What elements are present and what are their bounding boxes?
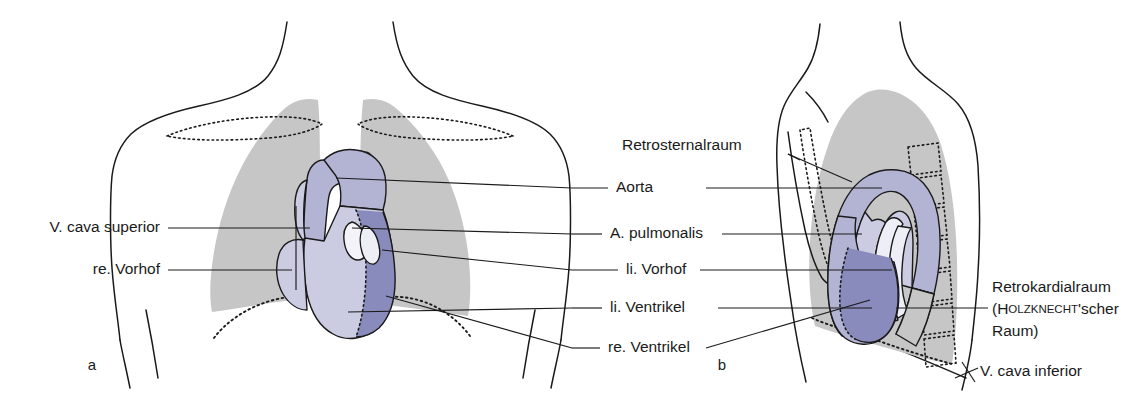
label-retrokardialraum-line2: (HOLZKNECHT'scher: [992, 300, 1119, 317]
label-holzknecht-post: 'scher: [1078, 300, 1119, 317]
label-aorta: Aorta: [616, 178, 653, 195]
anatomical-figure: a: [0, 0, 1121, 408]
label-li-ventrikel: li. Ventrikel: [610, 298, 685, 315]
label-v-cava-superior: V. cava superior: [49, 218, 160, 235]
label-re-vorhof: re. Vorhof: [93, 260, 161, 277]
body-outline-left-inner-flank: [146, 310, 158, 378]
body-outline-right-flank: [551, 340, 561, 388]
panel-a-frontal-view: a: [88, 22, 571, 388]
body-outline-right-inner-flank: [523, 310, 535, 378]
label-retrokardialraum-line1: Retrokardialraum: [992, 278, 1111, 295]
label-retrokardialraum-line3: Raum): [992, 322, 1039, 339]
label-holzknecht-smallcaps: OLZKNECHT: [1008, 303, 1078, 315]
lateral-right-ventricle-shape: [840, 248, 898, 342]
label-li-vorhof: li. Vorhof: [626, 260, 687, 277]
leader-re-ventrikel-a-to-heart: [386, 296, 572, 348]
label-v-cava-inferior: V. cava inferior: [980, 362, 1082, 379]
label-holzknecht-pre: (H: [992, 300, 1008, 317]
label-a-pulmonalis: A. pulmonalis: [610, 224, 703, 241]
label-retrosternalraum: Retrosternalraum: [622, 136, 742, 153]
panel-b-letter: b: [718, 356, 726, 373]
panel-b-lateral-view: b: [718, 22, 980, 390]
panel-a-letter: a: [88, 356, 97, 373]
lateral-body-outline-neck-front: [806, 92, 828, 122]
label-re-ventrikel: re. Ventrikel: [608, 338, 690, 355]
body-outline-left-flank: [120, 340, 130, 388]
label-texts: V. cava superior re. Vorhof Retrosternal…: [49, 136, 1118, 379]
